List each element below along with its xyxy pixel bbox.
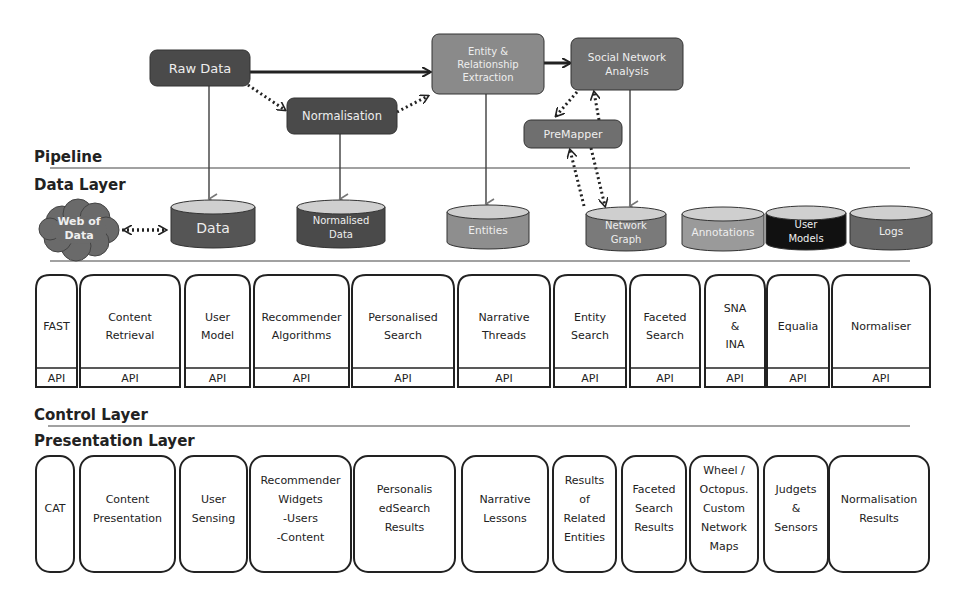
presentation-component: FacetedSearchResults <box>622 456 686 572</box>
presentation-component: Wheel /Octopus.CustomNetworkMaps <box>690 456 758 572</box>
api-component-label: Entity <box>574 311 607 324</box>
section-label-control-layer: Control Layer <box>34 406 148 424</box>
pipeline-node-sna: Social NetworkAnalysis <box>571 38 683 90</box>
presentation-component-label: Normalisation <box>841 493 917 506</box>
pipeline-node-entity-extraction: Entity &RelationshipExtraction <box>432 34 544 94</box>
pipeline-node-raw-data: Raw Data <box>150 50 250 86</box>
api-component: FacetedSearchAPI <box>630 275 700 387</box>
presentation-component-label: Related <box>564 512 606 525</box>
api-component-label: Faceted <box>644 311 687 324</box>
api-component: EntitySearchAPI <box>554 275 626 387</box>
presentation-component-label: of <box>579 493 591 506</box>
datastore-label: Network <box>605 220 647 231</box>
presentation-component-label: Sensing <box>192 512 235 525</box>
api-component-label: FAST <box>43 320 70 333</box>
api-component-label: Narrative <box>478 311 529 324</box>
presentation-component: RecommenderWidgets-Users-Content <box>250 456 351 572</box>
api-component-label: & <box>731 320 740 333</box>
pipeline-node-label: Normalisation <box>302 109 382 123</box>
datastore-label: Data <box>329 229 353 240</box>
datastore-label: Graph <box>611 234 642 245</box>
pipeline-node-premapper: PreMapper <box>524 120 622 148</box>
presentation-component-label: Narrative <box>479 493 530 506</box>
api-label: API <box>872 372 889 385</box>
api-component-label: Retrieval <box>106 329 155 342</box>
section-label-data-layer: Data Layer <box>34 176 126 194</box>
pipeline-node-label: Extraction <box>462 72 513 83</box>
api-component: ContentRetrievalAPI <box>80 275 180 387</box>
api-component-label: Search <box>646 329 684 342</box>
api-component-label: Content <box>108 311 152 324</box>
section-label-pipeline: Pipeline <box>34 148 102 166</box>
pipeline-node-label: Entity & <box>468 46 508 57</box>
datastore-label: Annotations <box>691 226 754 238</box>
cloud-label: Web of <box>57 215 100 228</box>
api-component-label: Search <box>571 329 609 342</box>
presentation-component: UserSensing <box>180 456 247 572</box>
presentation-component-label: Octopus. <box>700 483 749 496</box>
api-label: API <box>209 372 226 385</box>
api-component-label: Model <box>201 329 234 342</box>
presentation-component-label: Results <box>634 521 674 534</box>
pipeline-node-label: Analysis <box>605 65 648 77</box>
presentation-component-label: Personalis <box>377 483 433 496</box>
presentation-component-label: Custom <box>703 502 745 515</box>
datastore-annotations: Annotations <box>682 207 764 251</box>
api-label: API <box>293 372 310 385</box>
api-label: API <box>495 372 512 385</box>
api-component-label: Recommender <box>261 311 342 324</box>
datastore-normalised-data: NormalisedData <box>297 200 385 248</box>
datastore-label: Logs <box>879 225 903 237</box>
api-label: API <box>789 372 806 385</box>
pipeline-node-label: Social Network <box>588 51 667 63</box>
api-component: PersonalisedSearchAPI <box>352 275 454 387</box>
api-label: API <box>726 372 743 385</box>
datastore-entities: Entities <box>447 205 529 249</box>
presentation-component-label: Recommender <box>260 474 341 487</box>
pipeline-node-label: PreMapper <box>544 128 603 141</box>
presentation-component-label: Search <box>635 502 673 515</box>
api-component: FASTAPI <box>36 275 77 387</box>
presentation-component-label: User <box>201 493 227 506</box>
api-label: API <box>121 372 138 385</box>
architecture-diagram: Raw DataNormalisationEntity &Relationshi… <box>0 0 966 602</box>
pipeline-node-label: Raw Data <box>169 61 232 76</box>
presentation-component-label: Network <box>701 521 748 534</box>
datastore-label: Models <box>788 233 823 244</box>
datastore-logs: Logs <box>850 206 932 250</box>
presentation-component: CAT <box>36 456 74 572</box>
presentation-component-label: Widgets <box>278 493 323 506</box>
section-label-presentation-layer: Presentation Layer <box>34 432 195 450</box>
api-component-label: INA <box>726 338 745 351</box>
presentation-component-label: Sensors <box>774 521 818 534</box>
api-component-label: Normaliser <box>851 320 911 333</box>
api-component: NormaliserAPI <box>832 275 930 387</box>
presentation-component-label: -Content <box>277 531 325 544</box>
api-component: NarrativeThreadsAPI <box>458 275 550 387</box>
api-label: API <box>48 372 65 385</box>
api-label: API <box>581 372 598 385</box>
api-component: EqualiaAPI <box>767 275 829 387</box>
presentation-component-label: Judgets <box>775 483 817 496</box>
api-component-label: Algorithms <box>272 329 332 342</box>
presentation-component: Judgets&Sensors <box>764 456 828 572</box>
api-label: API <box>656 372 673 385</box>
presentation-component-label: Results <box>385 521 425 534</box>
datastore-label: Data <box>196 220 229 236</box>
presentation-component-label: edSearch <box>379 502 431 515</box>
pipeline-node-label: Relationship <box>457 59 518 70</box>
datastore-data: Data <box>171 200 255 248</box>
presentation-component: NormalisationResults <box>829 456 929 572</box>
datastore-network-graph: NetworkGraph <box>586 207 666 251</box>
cloud-label: Data <box>64 229 93 242</box>
presentation-component-label: Results <box>859 512 899 525</box>
api-component-label: User <box>205 311 231 324</box>
datastore-label: Normalised <box>313 215 370 226</box>
presentation-component: NarrativeLessons <box>462 456 548 572</box>
web-of-data-cloud: Web ofData <box>39 199 119 261</box>
presentation-component-label: Maps <box>710 540 739 553</box>
api-component-label: Search <box>384 329 422 342</box>
presentation-component-label: Lessons <box>483 512 527 525</box>
datastore-user-models: UserModels <box>766 206 846 250</box>
api-component-label: Equalia <box>778 320 819 333</box>
